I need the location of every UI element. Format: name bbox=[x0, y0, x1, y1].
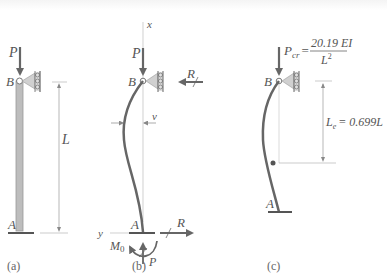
top-label: B bbox=[6, 74, 14, 89]
critical-load-label: Pcr= bbox=[283, 43, 309, 60]
deflection-label: v bbox=[152, 110, 157, 122]
effective-length-label: Le= 0.699L bbox=[325, 115, 383, 131]
reaction-label-bottom: R bbox=[176, 215, 185, 230]
deflected-column bbox=[263, 81, 279, 212]
roller-support-icon bbox=[282, 71, 299, 92]
axial-label: P bbox=[148, 255, 157, 269]
load-label: P bbox=[131, 46, 141, 61]
top-label: B bbox=[264, 74, 272, 89]
bottom-label: A bbox=[130, 217, 139, 232]
formula-numerator: 20.19 EI bbox=[311, 36, 353, 50]
bottom-label: A bbox=[265, 196, 274, 211]
deflected-column bbox=[124, 81, 143, 232]
reaction-label-top: R bbox=[186, 66, 195, 81]
panel-c: Pcr= 20.19 EI L2 B A bbox=[263, 36, 383, 273]
caption-c: (c) bbox=[267, 259, 280, 273]
top-label: B bbox=[128, 74, 136, 89]
inflection-point bbox=[271, 161, 276, 166]
caption-b: (b) bbox=[132, 259, 146, 273]
moment-label: M0 bbox=[109, 239, 125, 254]
bottom-label: A bbox=[7, 217, 16, 232]
formula-denominator: L2 bbox=[320, 52, 332, 67]
panel-b: x P B R v A y R bbox=[97, 18, 203, 273]
y-axis-label: y bbox=[97, 227, 103, 239]
load-label: P bbox=[8, 45, 18, 60]
roller-support-icon bbox=[22, 71, 40, 92]
caption-a: (a) bbox=[7, 259, 20, 273]
roller-support-icon bbox=[146, 71, 163, 92]
panel-a: P B A L (a) bbox=[6, 45, 70, 273]
length-label: L bbox=[61, 132, 70, 147]
x-axis-label: x bbox=[146, 18, 152, 30]
column bbox=[16, 81, 23, 231]
length-dimension bbox=[40, 82, 68, 233]
